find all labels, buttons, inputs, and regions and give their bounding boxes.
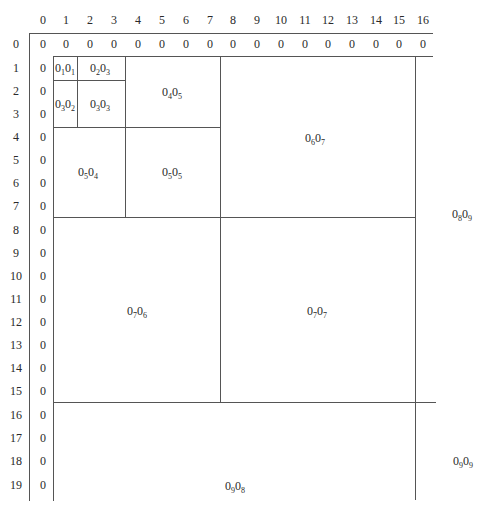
cell-value: 0 <box>40 177 46 189</box>
row-header: 14 <box>10 362 22 374</box>
cell-value: 0 <box>40 108 46 120</box>
col-header: 5 <box>159 14 165 26</box>
col-header: 9 <box>254 14 260 26</box>
cell-value: 0 <box>420 38 426 50</box>
col-header: 8 <box>230 14 236 26</box>
cell-value: 0 <box>40 247 46 259</box>
cell-value: 0 <box>40 339 46 351</box>
cell-value: 0 <box>40 154 46 166</box>
row-header: 3 <box>13 108 19 120</box>
row-header: 11 <box>10 293 22 305</box>
row-header: 8 <box>13 224 19 236</box>
cell-value: 0 <box>63 38 69 50</box>
divider <box>125 56 126 217</box>
cell-value: 0 <box>40 455 46 467</box>
col-header: 2 <box>87 14 93 26</box>
cell-value: 0 <box>278 38 284 50</box>
cell-value: 0 <box>40 385 46 397</box>
cell-value: 0 <box>183 38 189 50</box>
block-label-0809: 0809 <box>452 208 472 220</box>
block-label-0908: 0908 <box>225 480 245 492</box>
cell-value: 0 <box>40 85 46 97</box>
divider <box>53 127 220 128</box>
row-header: 1 <box>13 62 19 74</box>
divider <box>53 217 415 218</box>
block-label-0405: 0405 <box>162 86 182 98</box>
cell-value: 0 <box>40 409 46 421</box>
cell-value: 0 <box>396 38 402 50</box>
col-header: 1 <box>63 14 69 26</box>
first-col-rule <box>53 56 54 501</box>
row-header: 5 <box>13 154 19 166</box>
cell-value: 0 <box>40 270 46 282</box>
divider <box>53 402 436 403</box>
col-header: 14 <box>370 14 382 26</box>
row-header: 9 <box>13 247 19 259</box>
divider <box>415 56 416 500</box>
cell-value: 0 <box>40 224 46 236</box>
cell-value: 0 <box>40 316 46 328</box>
col-header: 10 <box>275 14 287 26</box>
col-header: 7 <box>207 14 213 26</box>
col-header: 0 <box>40 14 46 26</box>
row-header: 0 <box>13 38 19 50</box>
row-header: 2 <box>13 85 19 97</box>
cell-value: 0 <box>40 131 46 143</box>
cell-value: 0 <box>325 38 331 50</box>
block-label-0707: 0707 <box>307 305 327 317</box>
col-header: 13 <box>346 14 358 26</box>
row-header: 19 <box>10 479 22 491</box>
row-header: 4 <box>13 131 19 143</box>
block-label-0909: 0909 <box>453 455 473 467</box>
cell-value: 0 <box>40 200 46 212</box>
cell-value: 0 <box>40 362 46 374</box>
block-label-0505: 0505 <box>162 166 182 178</box>
row-axis-rule <box>29 33 30 501</box>
divider <box>220 56 221 403</box>
col-header: 16 <box>417 14 429 26</box>
row-header: 17 <box>10 432 22 444</box>
cell-value: 0 <box>373 38 379 50</box>
col-header: 11 <box>299 14 311 26</box>
cell-value: 0 <box>87 38 93 50</box>
cell-value: 0 <box>302 38 308 50</box>
block-label-0303: 0303 <box>90 98 110 110</box>
cell-value: 0 <box>159 38 165 50</box>
cell-value: 0 <box>40 62 46 74</box>
col-header: 15 <box>393 14 405 26</box>
cell-value: 0 <box>207 38 213 50</box>
first-row-rule <box>53 56 433 57</box>
row-header: 6 <box>13 177 19 189</box>
header-rule <box>29 33 433 34</box>
divider <box>77 56 78 127</box>
cell-value: 0 <box>40 479 46 491</box>
block-label-0101: 0101 <box>55 62 75 74</box>
block-label-0302: 0302 <box>55 98 75 110</box>
row-header: 7 <box>13 200 19 212</box>
cell-value: 0 <box>40 38 46 50</box>
row-header: 12 <box>10 316 22 328</box>
cell-value: 0 <box>40 432 46 444</box>
row-header: 16 <box>10 409 22 421</box>
cell-value: 0 <box>254 38 260 50</box>
col-header: 6 <box>183 14 189 26</box>
cell-value: 0 <box>40 293 46 305</box>
cell-value: 0 <box>230 38 236 50</box>
col-header: 3 <box>111 14 117 26</box>
block-label-0607: 0607 <box>305 132 325 144</box>
cell-value: 0 <box>135 38 141 50</box>
col-header: 12 <box>322 14 334 26</box>
row-header: 18 <box>10 455 22 467</box>
cell-value: 0 <box>349 38 355 50</box>
block-label-0706: 0706 <box>127 305 147 317</box>
block-label-0504: 0504 <box>78 166 98 178</box>
cell-value: 0 <box>111 38 117 50</box>
col-header: 4 <box>135 14 141 26</box>
row-header: 13 <box>10 339 22 351</box>
block-label-0203: 0203 <box>90 62 110 74</box>
divider <box>53 80 125 81</box>
row-header: 10 <box>10 270 22 282</box>
row-header: 15 <box>10 385 22 397</box>
